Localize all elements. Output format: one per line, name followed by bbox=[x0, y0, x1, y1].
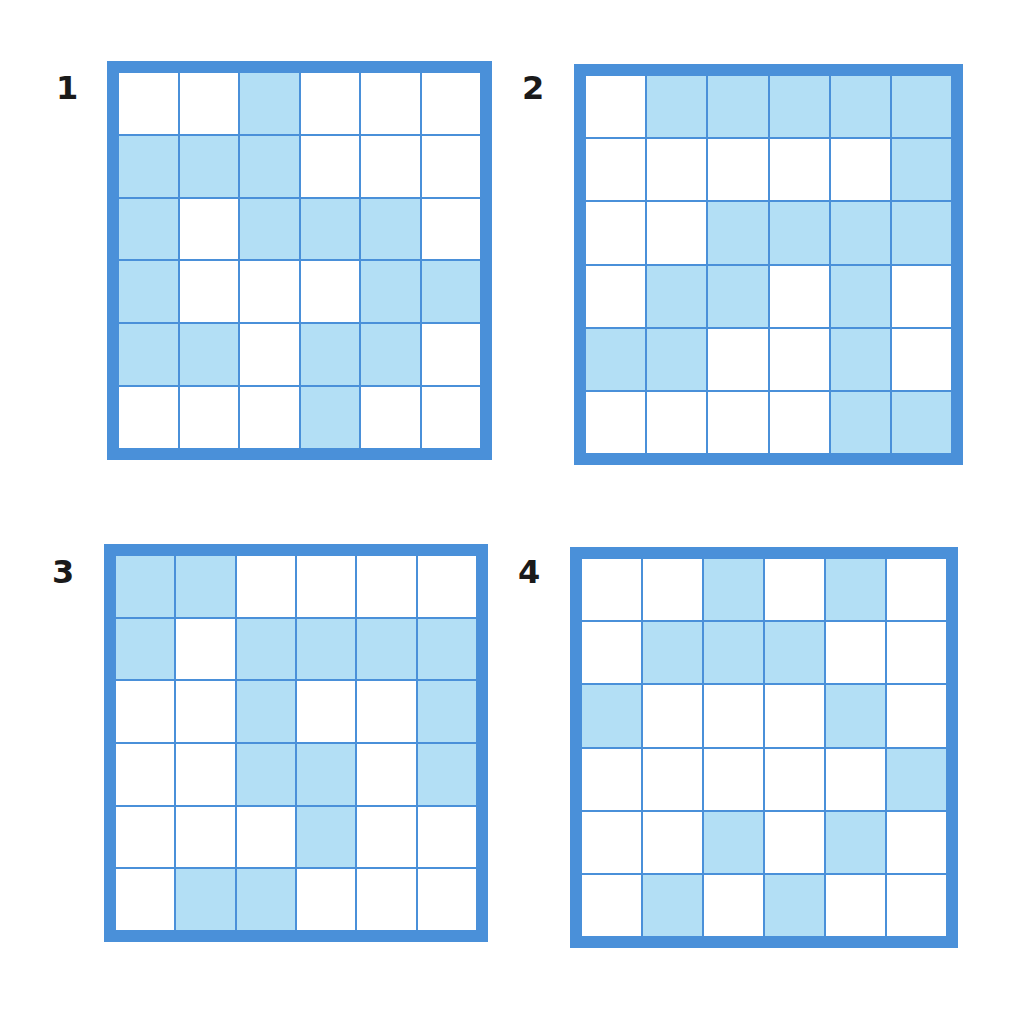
shaded-cell bbox=[301, 199, 360, 260]
shading-grid-1 bbox=[119, 73, 480, 448]
shaded-cell bbox=[765, 622, 824, 683]
shading-grid-3 bbox=[116, 556, 476, 930]
empty-cell bbox=[708, 329, 767, 390]
shaded-cell bbox=[116, 556, 174, 617]
shaded-cell bbox=[180, 324, 239, 385]
shaded-cell bbox=[297, 619, 355, 680]
empty-cell bbox=[422, 73, 481, 134]
empty-cell bbox=[770, 139, 829, 200]
shaded-cell bbox=[647, 266, 706, 327]
empty-cell bbox=[770, 392, 829, 453]
empty-cell bbox=[643, 812, 702, 873]
empty-cell bbox=[240, 261, 299, 322]
empty-cell bbox=[586, 202, 645, 263]
panel-label-4: 4 bbox=[518, 556, 540, 588]
shaded-cell bbox=[361, 261, 420, 322]
shaded-cell bbox=[708, 266, 767, 327]
grid-frame-2 bbox=[574, 64, 963, 465]
shaded-cell bbox=[237, 681, 295, 742]
empty-cell bbox=[361, 136, 420, 197]
empty-cell bbox=[418, 869, 476, 930]
empty-cell bbox=[586, 76, 645, 137]
shaded-cell bbox=[892, 76, 951, 137]
empty-cell bbox=[887, 812, 946, 873]
empty-cell bbox=[586, 266, 645, 327]
empty-cell bbox=[180, 261, 239, 322]
empty-cell bbox=[301, 73, 360, 134]
empty-cell bbox=[116, 744, 174, 805]
empty-cell bbox=[237, 556, 295, 617]
empty-cell bbox=[647, 202, 706, 263]
empty-cell bbox=[301, 136, 360, 197]
shaded-cell bbox=[301, 387, 360, 448]
panel-label-3: 3 bbox=[52, 556, 74, 588]
empty-cell bbox=[119, 387, 178, 448]
empty-cell bbox=[765, 812, 824, 873]
empty-cell bbox=[116, 869, 174, 930]
empty-cell bbox=[647, 139, 706, 200]
shaded-cell bbox=[831, 266, 890, 327]
shaded-cell bbox=[119, 136, 178, 197]
empty-cell bbox=[418, 556, 476, 617]
empty-cell bbox=[765, 749, 824, 810]
shaded-cell bbox=[826, 559, 885, 620]
empty-cell bbox=[301, 261, 360, 322]
empty-cell bbox=[357, 556, 415, 617]
empty-cell bbox=[180, 387, 239, 448]
empty-cell bbox=[892, 329, 951, 390]
empty-cell bbox=[647, 392, 706, 453]
shaded-cell bbox=[180, 136, 239, 197]
shaded-cell bbox=[704, 559, 763, 620]
shaded-cell bbox=[240, 199, 299, 260]
empty-cell bbox=[586, 392, 645, 453]
empty-cell bbox=[887, 559, 946, 620]
empty-cell bbox=[418, 807, 476, 868]
shaded-cell bbox=[297, 807, 355, 868]
empty-cell bbox=[422, 387, 481, 448]
shaded-cell bbox=[770, 202, 829, 263]
shaded-cell bbox=[770, 76, 829, 137]
empty-cell bbox=[119, 73, 178, 134]
shaded-cell bbox=[176, 869, 234, 930]
shaded-cell bbox=[418, 619, 476, 680]
shaded-cell bbox=[119, 324, 178, 385]
empty-cell bbox=[297, 869, 355, 930]
empty-cell bbox=[643, 559, 702, 620]
shaded-cell bbox=[582, 685, 641, 746]
shaded-cell bbox=[708, 202, 767, 263]
empty-cell bbox=[357, 869, 415, 930]
empty-cell bbox=[240, 324, 299, 385]
shaded-cell bbox=[240, 136, 299, 197]
shaded-cell bbox=[237, 619, 295, 680]
shaded-cell bbox=[892, 202, 951, 263]
shaded-cell bbox=[831, 392, 890, 453]
shaded-cell bbox=[418, 681, 476, 742]
shaded-cell bbox=[831, 76, 890, 137]
shaded-cell bbox=[647, 329, 706, 390]
empty-cell bbox=[116, 807, 174, 868]
empty-cell bbox=[582, 622, 641, 683]
empty-cell bbox=[357, 681, 415, 742]
shaded-cell bbox=[301, 324, 360, 385]
empty-cell bbox=[643, 749, 702, 810]
empty-cell bbox=[297, 556, 355, 617]
empty-cell bbox=[582, 749, 641, 810]
shaded-cell bbox=[831, 202, 890, 263]
empty-cell bbox=[361, 73, 420, 134]
empty-cell bbox=[297, 681, 355, 742]
empty-cell bbox=[361, 387, 420, 448]
empty-cell bbox=[176, 744, 234, 805]
empty-cell bbox=[826, 622, 885, 683]
empty-cell bbox=[180, 73, 239, 134]
empty-cell bbox=[586, 139, 645, 200]
empty-cell bbox=[422, 324, 481, 385]
shaded-cell bbox=[826, 812, 885, 873]
shading-grid-4 bbox=[582, 559, 946, 936]
shaded-cell bbox=[418, 744, 476, 805]
empty-cell bbox=[770, 266, 829, 327]
empty-cell bbox=[708, 139, 767, 200]
empty-cell bbox=[357, 807, 415, 868]
grid-frame-3 bbox=[104, 544, 488, 942]
empty-cell bbox=[237, 807, 295, 868]
empty-cell bbox=[582, 559, 641, 620]
